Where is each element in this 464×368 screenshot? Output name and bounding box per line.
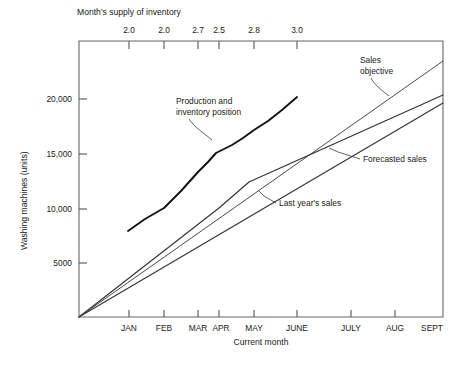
x-axis-tick-label-jan: JAN xyxy=(121,323,137,333)
y-axis-ticks xyxy=(79,99,87,263)
leader-line-forecasted-sales xyxy=(329,148,360,159)
top-axis-tick-label-1: 2.0 xyxy=(158,25,170,35)
line-chart: Month's supply of inventory 2.0 2.0 2.7 … xyxy=(0,0,464,368)
annotation-production-line2: inventory position xyxy=(176,107,242,117)
y-axis-tick-label-15000: 15,000 xyxy=(46,149,72,159)
series-production-inventory xyxy=(128,97,297,231)
x-axis-tick-label-mar: MAR xyxy=(189,323,208,333)
leader-line-production xyxy=(189,119,212,140)
top-axis-tick-label-3: 2.5 xyxy=(213,25,225,35)
x-axis-tick-label-june: JUNE xyxy=(286,323,308,333)
x-axis-ticks xyxy=(129,310,395,317)
y-axis-tick-label-5000: 5000 xyxy=(53,258,72,268)
leader-line-last-years-sales xyxy=(259,191,276,203)
annotation-sales-objective-line2: objective xyxy=(360,66,393,76)
x-axis-tick-label-apr: APR xyxy=(212,323,229,333)
series-forecasted-sales xyxy=(79,95,443,317)
top-axis-tick-label-0: 2.0 xyxy=(123,25,135,35)
y-axis-tick-label-20000: 20,000 xyxy=(46,94,72,104)
chart-container: Month's supply of inventory 2.0 2.0 2.7 … xyxy=(0,0,464,368)
top-axis-tick-label-4: 2.8 xyxy=(248,25,260,35)
x-axis-title: Current month xyxy=(234,337,289,347)
top-axis-tick-label-2: 2.7 xyxy=(192,25,204,35)
top-axis-title: Month's supply of inventory xyxy=(77,7,182,17)
x-axis-tick-label-may: MAY xyxy=(245,323,263,333)
x-axis-tick-label-sept: SEPT xyxy=(421,323,443,333)
leader-line-sales-objective xyxy=(371,78,389,96)
annotation-forecasted-sales: Forecasted sales xyxy=(363,154,427,164)
y-axis-title: Washing machines (units) xyxy=(19,151,29,250)
annotation-sales-objective-line1: Sales xyxy=(360,55,381,65)
x-axis-tick-label-july: JULY xyxy=(341,323,361,333)
x-axis-tick-label-feb: FEB xyxy=(156,323,173,333)
top-axis-tick-label-5: 3.0 xyxy=(291,25,303,35)
annotation-last-years-sales: Last year's sales xyxy=(279,198,341,208)
x-axis-tick-label-aug: AUG xyxy=(386,323,404,333)
series-sales-objective xyxy=(79,61,443,317)
annotation-production-line1: Production and xyxy=(176,96,233,106)
plot-frame xyxy=(79,41,443,317)
y-axis-tick-label-10000: 10,000 xyxy=(46,204,72,214)
top-axis-ticks xyxy=(129,41,297,49)
series-last-years-sales xyxy=(79,103,443,317)
